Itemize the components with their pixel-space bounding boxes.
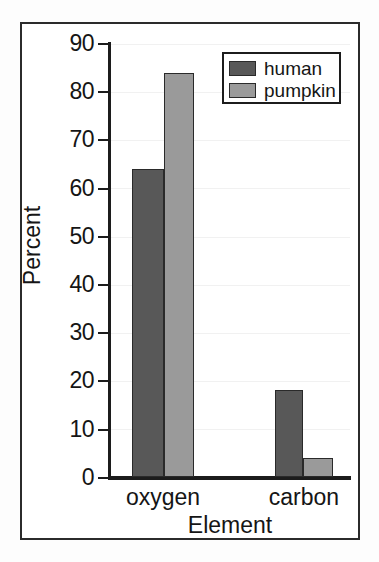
y-tick-50 [98, 236, 109, 238]
legend-swatch-human-icon [229, 61, 256, 76]
y-tick-label-70-wrap: 70 [28, 128, 94, 151]
x-tick-label-carbon: carbon [244, 484, 364, 511]
x-tick-label-oxygen: oxygen [103, 484, 223, 511]
y-tick-label-80-wrap: 80 [28, 80, 94, 103]
y-tick-0 [98, 477, 109, 479]
chart-figure: 90 80 70 60 50 40 30 20 10 0 oxygen carb… [0, 0, 379, 562]
gridline-90 [110, 44, 350, 45]
y-tick-90 [98, 43, 109, 45]
legend-item-human: human [229, 58, 334, 78]
y-tick-label-0-wrap: 0 [28, 466, 94, 489]
y-tick-label-10: 10 [36, 418, 94, 441]
y-tick-60 [98, 188, 109, 190]
legend-swatch-pumpkin-icon [229, 83, 256, 98]
y-tick-label-90-wrap: 90 [28, 32, 94, 55]
y-tick-20 [98, 380, 109, 382]
x-axis-title: Element [110, 512, 350, 539]
y-tick-10 [98, 429, 109, 431]
y-tick-40 [98, 284, 109, 286]
y-tick-label-10-wrap: 10 [28, 418, 94, 441]
bar-carbon-pumpkin [303, 458, 333, 477]
legend-label-human: human [264, 59, 322, 78]
y-tick-label-20: 20 [36, 369, 94, 392]
y-tick-label-70: 70 [36, 128, 94, 151]
y-tick-label-80: 80 [36, 80, 94, 103]
y-axis-spine [108, 42, 111, 479]
y-axis-title: Percent [19, 186, 46, 306]
y-tick-label-20-wrap: 20 [28, 369, 94, 392]
chart-legend: human pumpkin [222, 52, 341, 104]
y-tick-label-90: 90 [36, 32, 94, 55]
y-tick-30 [98, 332, 109, 334]
y-tick-70 [98, 139, 109, 141]
y-tick-80 [98, 91, 109, 93]
y-tick-label-30-wrap: 30 [28, 321, 94, 344]
legend-label-pumpkin: pumpkin [264, 81, 336, 100]
bar-oxygen-human [132, 169, 164, 477]
gridline-70 [110, 140, 350, 141]
bar-oxygen-pumpkin [164, 73, 194, 477]
y-tick-label-0: 0 [36, 466, 94, 489]
legend-item-pumpkin: pumpkin [229, 80, 334, 100]
bar-carbon-human [275, 390, 303, 477]
y-tick-label-30: 30 [36, 321, 94, 344]
